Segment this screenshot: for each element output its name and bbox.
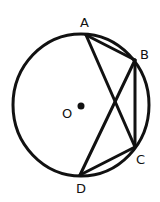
chords	[80, 35, 135, 175]
center-label: O	[62, 106, 72, 121]
point-label-a: A	[80, 15, 89, 30]
circle-diagram: O ABCD	[0, 0, 160, 202]
point-label-d: D	[76, 181, 86, 196]
center-point	[78, 103, 85, 110]
point-label-b: B	[140, 47, 149, 62]
point-label-c: C	[136, 152, 145, 167]
segment-ab	[86, 35, 135, 60]
